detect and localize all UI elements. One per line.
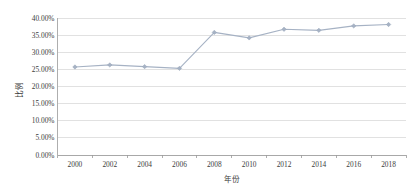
x-axis-tick-label: 2014 <box>311 160 326 169</box>
data-point-marker: 2002: 26.30% <box>108 63 112 67</box>
y-axis-tick-label: 35.00% <box>32 31 55 40</box>
x-axis-tick-label: 2002 <box>102 160 117 169</box>
y-axis-tick-label: 20.00% <box>32 82 55 91</box>
y-axis-tick-label: 10.00% <box>32 116 55 125</box>
chart-container: 0.00%5.00%10.00%15.00%20.00%25.00%30.00%… <box>0 0 418 196</box>
x-axis-tick-label: 2004 <box>137 160 152 169</box>
y-axis-title: 比例 <box>14 82 24 98</box>
line-chart: 0.00%5.00%10.00%15.00%20.00%25.00%30.00%… <box>0 0 418 196</box>
y-axis-tick-label: 5.00% <box>35 133 54 142</box>
gridlines-group <box>58 18 407 155</box>
y-axis-tick-label: 0.00% <box>35 151 54 160</box>
data-point-marker: 2004: 25.80% <box>142 64 146 68</box>
x-axis-tick-label: 2010 <box>242 160 257 169</box>
y-axis-tick-label: 30.00% <box>32 48 55 57</box>
series-markers-group: 2000: 25.70%2002: 26.30%2004: 25.80%2006… <box>73 22 391 70</box>
x-axis-title: 年份 <box>224 174 240 184</box>
x-axis-tick-label: 2000 <box>68 160 83 169</box>
data-point-marker: 2018: 38.10% <box>386 22 390 26</box>
data-point-marker: 2014: 36.40% <box>317 28 321 32</box>
y-axis-tick-labels: 0.00%5.00%10.00%15.00%20.00%25.00%30.00%… <box>32 14 55 160</box>
x-axis-tick-label: 2008 <box>207 160 222 169</box>
y-axis-tick-label: 40.00% <box>32 14 55 23</box>
data-point-marker: 2000: 25.70% <box>73 65 77 69</box>
data-point-marker: 2016: 37.70% <box>352 24 356 28</box>
y-axis-tick-label: 15.00% <box>32 99 55 108</box>
x-axis-tick-label: 2006 <box>172 160 187 169</box>
x-axis-tick-label: 2012 <box>277 160 292 169</box>
data-point-marker: 2012: 36.70% <box>282 27 286 31</box>
x-axis-tick-label: 2016 <box>346 160 361 169</box>
x-axis-tick-label: 2018 <box>381 160 396 169</box>
data-point-marker: 2010: 34.20% <box>247 36 251 40</box>
x-axis-tick-labels: 2000200220042006200820102012201420162018 <box>68 160 397 169</box>
y-axis-tick-label: 25.00% <box>32 65 55 74</box>
series-line-ratio <box>75 25 389 69</box>
x-axis-tick-marks <box>58 155 407 158</box>
